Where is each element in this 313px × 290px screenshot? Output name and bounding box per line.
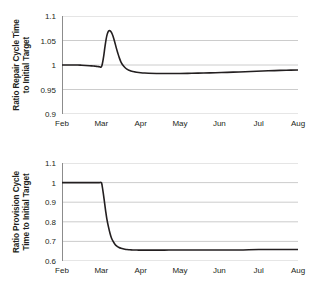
x-tick-label: Apr	[134, 119, 146, 128]
x-tick-labels-repair: FebMarAprMayJunJulAug	[0, 119, 313, 135]
x-tick-label: Mar	[94, 266, 108, 275]
y-axis-title-repair: Ratio Repair Cycle Time to Initial Targe…	[2, 0, 42, 130]
chart-panel-repair-cycle-time: Ratio Repair Cycle Time to Initial Targe…	[0, 0, 313, 145]
x-tick-label: May	[172, 119, 187, 128]
y-tick-label: 1.05	[40, 36, 56, 45]
x-tick-label: Feb	[55, 266, 69, 275]
data-series-line	[62, 182, 298, 250]
y-tick-label: 0.8	[45, 217, 56, 226]
x-tick-label: Jul	[254, 119, 264, 128]
y-tick-label: 1	[52, 61, 56, 70]
y-tick-label: 0.7	[45, 237, 56, 246]
plot-area-repair	[62, 16, 298, 114]
x-tick-label: Aug	[291, 119, 305, 128]
x-tick-label: Jun	[213, 266, 226, 275]
y-tick-label: 1.1	[45, 12, 56, 21]
x-tick-label: Jul	[254, 266, 264, 275]
x-tick-label: Feb	[55, 119, 69, 128]
y-tick-label: 0.9	[45, 110, 56, 119]
data-series-line	[62, 31, 298, 74]
y-tick-label: 1.1	[45, 159, 56, 168]
chart-svg-provision	[62, 163, 298, 261]
y-axis-title-provision: Ratio Provision Cycle Time to Initial Ta…	[2, 147, 42, 277]
chart-svg-repair	[62, 16, 298, 114]
chart-panel-provision-cycle-time: Ratio Provision Cycle Time to Initial Ta…	[0, 145, 313, 290]
x-tick-label: Jun	[213, 119, 226, 128]
x-tick-label: Aug	[291, 266, 305, 275]
y-tick-label: 0.95	[40, 85, 56, 94]
x-tick-label: Mar	[94, 119, 108, 128]
x-tick-label: Apr	[134, 266, 146, 275]
y-tick-label: 0.9	[45, 198, 56, 207]
plot-area-provision	[62, 163, 298, 261]
figure-container: Ratio Repair Cycle Time to Initial Targe…	[0, 0, 313, 290]
x-tick-labels-provision: FebMarAprMayJunJulAug	[0, 266, 313, 282]
y-tick-label: 1	[52, 178, 56, 187]
y-tick-label: 0.6	[45, 257, 56, 266]
x-tick-label: May	[172, 266, 187, 275]
